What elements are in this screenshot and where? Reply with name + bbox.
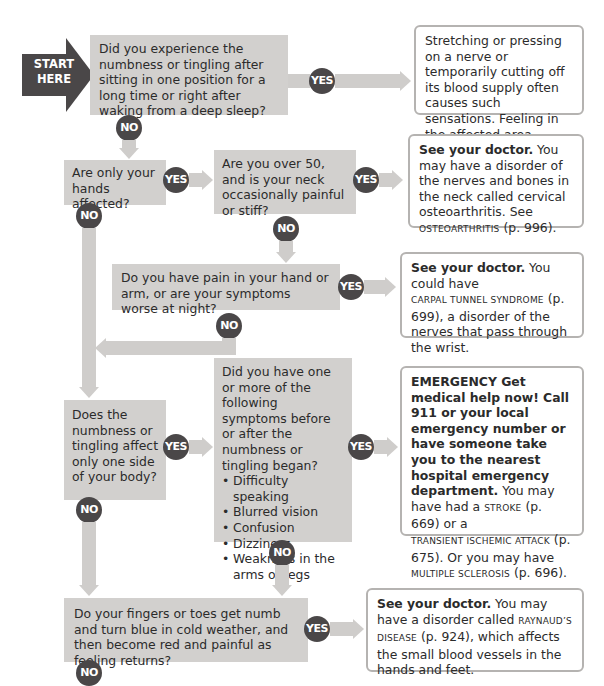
- symptom-item: Confusion: [222, 520, 344, 536]
- result-6-bold: EMERGENCY Get medical help now! Call 911…: [411, 374, 569, 498]
- arrow-q7-yes-head: [353, 619, 364, 639]
- start-label-line2: HERE: [26, 72, 82, 87]
- arrow-q1-no-head: [119, 148, 139, 159]
- yes-badge-q5: YES: [163, 434, 189, 460]
- result-7-box: See your doctor. You may have a disorder…: [366, 588, 584, 672]
- arrow-q3-yes-head: [392, 170, 403, 190]
- no-badge-q6: NO: [269, 540, 295, 566]
- arrow-q4-yes-head: [385, 277, 396, 297]
- arrow-q7-yes-shaft: [330, 622, 354, 636]
- no-badge-q3: NO: [273, 216, 299, 242]
- result-4-box: See your doctor. You could have CARPAL T…: [400, 252, 584, 338]
- question-2-box: Are only your hands affected?: [64, 160, 166, 205]
- result-4-ref-link[interactable]: CARPAL TUNNEL SYNDROME: [411, 295, 544, 305]
- start-label-line1: START: [26, 57, 82, 72]
- result-6-box: EMERGENCY Get medical help now! Call 911…: [400, 366, 584, 536]
- no-badge-q1: NO: [116, 115, 142, 141]
- symptom-item: Blurred vision: [222, 504, 344, 520]
- yes-badge-q6: YES: [348, 434, 374, 460]
- arrow-q4-no-left-head: [95, 338, 106, 358]
- arrow-q6-yes-shaft: [374, 440, 388, 454]
- yes-badge-q4: YES: [338, 274, 364, 300]
- start-here-arrow: START HERE: [22, 38, 94, 112]
- arrow-q2-yes-head: [202, 170, 213, 190]
- result-3-text2: (p. 996).: [500, 220, 557, 235]
- arrow-q6-no-shaft: [275, 565, 289, 586]
- question-6-box: Did you have one or more of the followin…: [214, 358, 352, 542]
- yes-badge-q2: YES: [163, 167, 189, 193]
- result-6-ref1-link[interactable]: STROKE: [484, 503, 521, 513]
- arrow-q2-no-head: [79, 387, 99, 398]
- arrow-q4-yes-shaft: [364, 280, 386, 294]
- question-3-text: Are you over 50, and is your neck occasi…: [222, 156, 344, 218]
- question-6-text: Did you have one or more of the followin…: [222, 364, 344, 473]
- arrow-q6-no-head: [272, 585, 292, 596]
- question-7-text: Do your fingers or toes get numb and tur…: [74, 606, 288, 668]
- result-6-text4: (p. 696).: [510, 565, 567, 580]
- question-3-box: Are you over 50, and is your neck occasi…: [214, 150, 356, 214]
- arrow-q1-yes-shaft: [335, 74, 401, 88]
- no-badge-q2: NO: [76, 203, 102, 229]
- no-badge-q4: NO: [216, 313, 242, 339]
- result-3-box: See your doctor. You may have a disorder…: [408, 134, 584, 228]
- result-3-ref-link[interactable]: OSTEOARTHRITIS: [419, 224, 500, 234]
- yes-badge-q3: YES: [353, 167, 379, 193]
- question-4-box: Do you have pain in your hand or arm, or…: [112, 264, 340, 310]
- arrow-q5-yes-shaft: [189, 440, 203, 454]
- symptom-item: Difficulty speaking: [222, 473, 344, 504]
- result-6-ref3-link[interactable]: MULTIPLE SCLEROSIS: [411, 569, 510, 579]
- start-label: START HERE: [26, 57, 82, 87]
- no-badge-q7: NO: [76, 660, 102, 686]
- question-1-box: Did you experience the numbness or tingl…: [90, 35, 288, 115]
- arrow-q5-no-head: [79, 585, 99, 596]
- arrow-q5-yes-head: [202, 437, 213, 457]
- question-7-box: Do your fingers or toes get numb and tur…: [64, 598, 308, 662]
- arrow-q3-no-head: [276, 252, 296, 263]
- question-5-text: Does the numbness or tingling affect onl…: [72, 407, 158, 484]
- question-4-text: Do you have pain in your hand or arm, or…: [121, 270, 329, 316]
- yes-badge-q7: YES: [304, 616, 330, 642]
- result-7-bold: See your doctor.: [377, 596, 491, 611]
- question-5-box: Does the numbness or tingling affect onl…: [64, 400, 166, 500]
- arrow-q2-no-shaft: [82, 228, 96, 388]
- result-4-bold: See your doctor.: [411, 260, 525, 275]
- yes-badge-q1: YES: [309, 68, 335, 94]
- arrow-q5-no-shaft: [82, 522, 96, 586]
- result-6-ref2-link[interactable]: TRANSIENT ISCHEMIC ATTACK: [411, 536, 550, 546]
- result-1-box: Stretching or pressing on a nerve or tem…: [414, 25, 584, 115]
- arrow-q4-no-left-shaft: [106, 341, 236, 355]
- arrow-q2-yes-shaft: [189, 173, 203, 187]
- connector-q1-yes: [288, 74, 310, 88]
- arrow-q1-yes-head: [400, 71, 411, 91]
- arrow-q3-yes-shaft: [379, 173, 393, 187]
- result-3-bold: See your doctor.: [419, 142, 533, 157]
- arrow-q6-yes-head: [387, 437, 398, 457]
- no-badge-q5: NO: [76, 497, 102, 523]
- question-1-text: Did you experience the numbness or tingl…: [99, 41, 266, 118]
